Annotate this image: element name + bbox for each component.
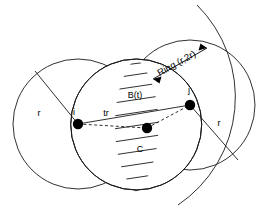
label-radius-left: r bbox=[38, 108, 41, 118]
label-node-j: j bbox=[187, 85, 190, 95]
geometry-diagram: r i tr j r B(t) C Ring (r,2r) bbox=[0, 0, 278, 210]
node-dot-i bbox=[73, 119, 83, 129]
label-distance-tr: tr bbox=[103, 108, 109, 118]
label-region-b: B(t) bbox=[128, 90, 143, 100]
radius-line-left bbox=[35, 71, 78, 124]
label-radius-right: r bbox=[218, 118, 221, 128]
label-region-c: C bbox=[137, 144, 144, 154]
diagram-canvas: r i tr j r B(t) C Ring (r,2r) bbox=[0, 0, 278, 210]
node-dot-k bbox=[142, 123, 152, 133]
node-dot-j bbox=[185, 100, 195, 110]
label-node-i: i bbox=[73, 107, 75, 117]
